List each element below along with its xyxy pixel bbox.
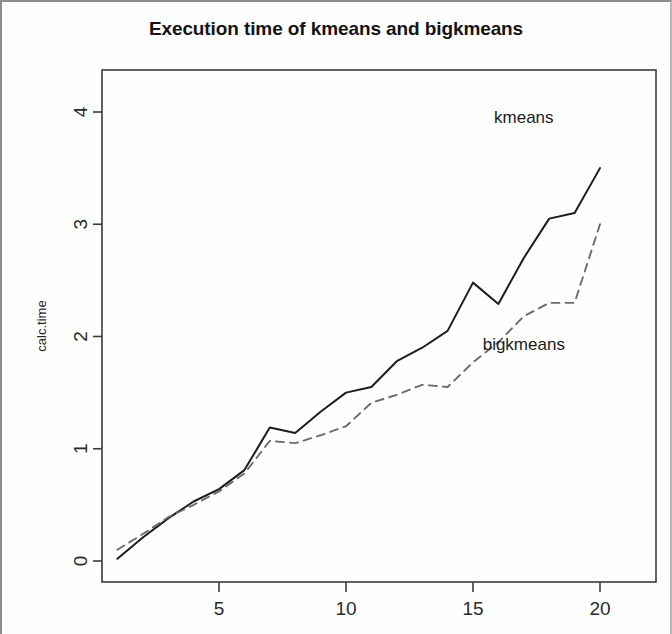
y-tick-label: 1	[70, 443, 91, 454]
line-chart-plot: 01234 5101520 calc.time kmeansbigkmeans	[0, 0, 672, 634]
x-tick-label: 15	[462, 598, 483, 619]
x-tick-label: 20	[589, 598, 610, 619]
x-tick-label: 5	[214, 598, 225, 619]
data-series-group	[117, 168, 600, 559]
y-axis-ticks: 01234	[70, 106, 103, 566]
x-tick-label: 10	[335, 598, 356, 619]
y-tick-label: 3	[70, 219, 91, 230]
plot-area-border	[102, 70, 656, 582]
series-annotation-group: kmeansbigkmeans	[483, 108, 565, 354]
y-tick-label: 2	[70, 331, 91, 342]
x-axis-ticks: 5101520	[214, 582, 611, 619]
series-line-bigkmeans	[117, 224, 600, 550]
chart-page: Execution time of kmeans and bigkmeans 0…	[0, 0, 672, 634]
series-annotation-kmeans: kmeans	[494, 108, 554, 127]
series-annotation-bigkmeans: bigkmeans	[483, 335, 565, 354]
y-axis-label: calc.time	[34, 300, 49, 351]
y-tick-label: 4	[70, 106, 91, 117]
y-tick-label: 0	[70, 556, 91, 567]
series-line-kmeans	[117, 168, 600, 559]
